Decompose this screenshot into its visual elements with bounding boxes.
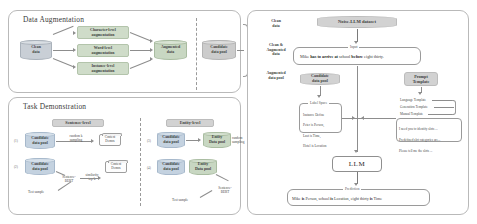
- label-space-line-3: Hotel is Location: [303, 144, 327, 149]
- panel-task-demonstration: Task Demonstration: [8, 97, 241, 215]
- task-tail-label-3: random sampling: [232, 136, 248, 145]
- template-option-generation: Generation Template: [400, 105, 428, 109]
- prediction-part-6: Time: [373, 196, 382, 201]
- divider-task-demonstration: [140, 118, 141, 206]
- task-row-index-1: (1): [14, 139, 18, 143]
- candidate-data-pool-cylinder-aug: Candidate data pool: [202, 40, 236, 60]
- divider-augmentation: [196, 18, 197, 90]
- test-sample-label-entity: Test sample: [172, 198, 188, 202]
- task-context-demos-2: Context Demos: [105, 161, 127, 173]
- panel-title-task-demonstration: Task Demonstration: [23, 102, 86, 111]
- task-source-pool-2: Candidate data pool: [25, 158, 55, 175]
- input-sentence-part-3: before: [351, 54, 363, 59]
- prediction-part-4: Location, eight thirty: [333, 196, 370, 201]
- task-source-pool-1: Candidate data pool: [25, 132, 55, 149]
- prompt-lines: I need you to identify slots ... Predefi…: [399, 121, 440, 160]
- task-row-index-2: (2): [14, 165, 18, 169]
- task-row-index-3: (3): [147, 139, 151, 143]
- task-entity-pool-4: Entity Data pool: [189, 159, 217, 175]
- prediction-part-0: Mike: [292, 196, 302, 201]
- input-sentence-part-4: eight thirty.: [363, 54, 384, 59]
- input-label: Input: [348, 45, 359, 49]
- input-sentence: Mike has to arrive at school before eigh…: [300, 54, 384, 59]
- candidate-data-pool-llm: Candidate data pool: [300, 73, 340, 85]
- connector-task-3: [186, 140, 198, 141]
- augmentation-method-instance: Instance-level augmentation: [77, 62, 129, 75]
- task-op-label-1: random k sampling: [60, 134, 92, 143]
- arrowhead-clean-to-instance: [73, 65, 76, 69]
- label-space-line-2: Last is Time,: [303, 134, 327, 139]
- prediction-sentence: Mike is Person, school is Location, eigh…: [292, 196, 382, 201]
- arrowhead-clean-to-word: [73, 48, 76, 52]
- arrowhead-word-to-augmented: [150, 48, 153, 52]
- prompt-line-0: I need you to identify slots ...: [399, 127, 440, 133]
- augmented-data-cylinder: Augmented data: [154, 40, 187, 60]
- arrowhead-task-3: [198, 138, 201, 142]
- heading-sentence-level: Sentence-level: [52, 119, 104, 127]
- prompt-line-1: Predefined slot categories are...: [399, 138, 440, 144]
- connector-input-to-llm: [357, 66, 358, 152]
- arrowhead-clean-to-character: [73, 31, 76, 35]
- task-source-pool-3: Candidate data pool: [157, 132, 185, 148]
- arrowhead-llm-to-prediction: [354, 183, 358, 186]
- input-sentence-part-2: school: [338, 54, 351, 59]
- task-source-pool-4: Candidate data pool: [157, 159, 185, 175]
- connector-option-manual: [428, 114, 454, 115]
- panel-title-data-augmentation: Data Augmentation: [23, 15, 84, 24]
- connector-clean-to-word: [53, 50, 73, 51]
- task-entity-pool-3: Entity Data pool: [203, 132, 231, 148]
- connector-task-2b: [80, 178, 98, 179]
- connector-option-language: [432, 100, 454, 101]
- connector-labelspace-to-llm: [342, 118, 358, 119]
- prediction-part-2: Person, school: [304, 196, 330, 201]
- arrowhead-dataset-to-input: [354, 41, 358, 44]
- label-space-title: Label Space: [308, 101, 329, 105]
- arrowhead-template-to-options: [418, 92, 422, 95]
- test-sample-label-sentence: Test sample: [28, 190, 44, 194]
- label-space-line-1: Peter is Person,: [303, 123, 327, 128]
- augmentation-method-character: Character-level augmentation: [77, 26, 129, 39]
- input-sentence-part-1: has to arrive at: [310, 54, 338, 59]
- arrowhead-labelspace-to-llm: [352, 116, 355, 120]
- connector-option-generation: [434, 107, 454, 108]
- arrowhead-into-llm: [354, 150, 358, 153]
- arrowhead-pool-to-labelspace: [317, 95, 321, 98]
- prediction-label: Prediction: [343, 187, 361, 191]
- prompt-template-box: Prompt Template: [404, 72, 438, 86]
- arrowhead-task-2: [98, 176, 101, 180]
- panel-llm-pipeline: [247, 10, 469, 215]
- arrowhead-instance-to-augmented: [150, 57, 153, 61]
- task-tail-label-4: Sentence- BERT: [213, 186, 237, 195]
- label-space-lines: Instance Define Peter is Person, Last is…: [303, 108, 327, 154]
- label-space-line-0: Instance Define: [303, 113, 327, 118]
- arrowhead-character-to-augmented: [150, 39, 153, 43]
- prompt-line-2: Please tell me the slots ...: [399, 149, 440, 155]
- template-option-language: Language Template: [400, 98, 426, 102]
- brace-template-options: [452, 100, 456, 115]
- heading-entity-level: Entity-level: [166, 119, 214, 127]
- template-option-manual: Manual Template: [400, 112, 423, 116]
- arrowhead-prompt-to-llm: [361, 116, 364, 120]
- augmentation-method-word: Word-level augmentation: [77, 44, 129, 57]
- llm-box: LLM: [332, 156, 382, 172]
- connector-word-to-augmented: [130, 50, 150, 51]
- input-sentence-part-0: Mike: [300, 54, 310, 59]
- task-row-index-4: (4): [147, 166, 151, 170]
- clean-data-cylinder: Clean data: [20, 40, 52, 60]
- figure-canvas: Data Augmentation Clean data Character-l…: [0, 0, 477, 224]
- task-context-demos-1: Context Demos: [99, 134, 121, 146]
- noise-llm-dataset-cylinder: Noise-LLM dataset: [317, 16, 397, 28]
